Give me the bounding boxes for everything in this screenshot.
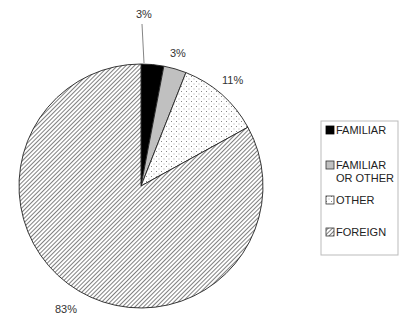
legend-swatch-familiar — [326, 126, 334, 134]
slice-label-other: 11% — [222, 74, 243, 86]
legend-item-familiar-or-other: FAMILIAR OR OTHER — [326, 159, 394, 184]
leader-line — [142, 24, 144, 63]
legend-item-other: OTHER — [326, 194, 375, 206]
legend-label-familiar-or-other-line2: OR OTHER — [336, 172, 394, 184]
pie-chart: 3% 3% 11% 83% FAMILIAR FAMILIAR OR OTHER… — [0, 0, 418, 331]
slice-label-familiar-or-other: 3% — [170, 47, 186, 59]
legend-swatch-other — [326, 196, 334, 204]
legend-label-familiar: FAMILIAR — [336, 124, 386, 136]
legend-swatch-foreign — [326, 228, 334, 236]
legend-label-familiar-or-other-line1: FAMILIAR — [336, 159, 386, 171]
legend-swatch-familiar-or-other — [326, 161, 334, 169]
slice-label-familiar: 3% — [136, 8, 152, 20]
legend-item-familiar: FAMILIAR — [326, 124, 386, 136]
legend-item-foreign: FOREIGN — [326, 226, 386, 238]
pie-slices — [19, 64, 263, 308]
slice-label-foreign: 83% — [55, 303, 77, 315]
legend: FAMILIAR FAMILIAR OR OTHER OTHER FOREIGN — [321, 121, 398, 255]
legend-label-foreign: FOREIGN — [336, 226, 386, 238]
legend-label-other: OTHER — [336, 194, 375, 206]
